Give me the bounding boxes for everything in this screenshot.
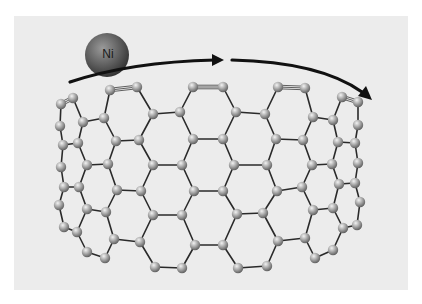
carbon-atom (308, 112, 318, 122)
carbon-atom (73, 138, 83, 148)
carbon-atom (300, 83, 310, 93)
carbon-atom (105, 85, 115, 95)
carbon-atom (327, 159, 337, 169)
carbon-atom (82, 160, 92, 170)
carbon-atom (68, 93, 78, 103)
carbon-atom (300, 233, 310, 243)
carbon-atom (337, 92, 347, 102)
carbon-atom (59, 222, 69, 232)
carbon-atom (334, 179, 344, 189)
carbon-atom (229, 160, 239, 170)
carbon-atom (103, 159, 113, 169)
carbon-atom (262, 261, 272, 271)
carbon-atom (232, 209, 242, 219)
carbon-atom (262, 160, 272, 170)
carbon-atom (150, 262, 160, 272)
carbon-atom (177, 210, 187, 220)
carbon-atom (233, 263, 243, 273)
carbon-atom (350, 178, 360, 188)
carbon-atom (190, 240, 200, 250)
carbon-atom (177, 160, 187, 170)
carbon-atom (353, 120, 363, 130)
carbon-atom (338, 223, 348, 233)
carbon-atom (272, 186, 282, 196)
carbon-atom (218, 240, 228, 250)
nickel-label: Ni (102, 47, 113, 61)
carbon-atom (78, 117, 88, 127)
carbon-atom (100, 253, 110, 263)
carbon-atom (189, 186, 199, 196)
figure-panel-background (14, 16, 408, 290)
carbon-atom (136, 186, 146, 196)
carbon-atom (258, 208, 268, 218)
carbon-atom (177, 263, 187, 273)
carbon-atom (111, 136, 121, 146)
carbon-atom (352, 220, 362, 230)
carbon-atom (298, 135, 308, 145)
carbon-atom (260, 109, 270, 119)
carbon-atom (273, 82, 283, 92)
carbon-atom (328, 245, 338, 255)
carbon-atom (132, 82, 142, 92)
carbon-atom (55, 121, 65, 131)
carbon-atom (328, 203, 338, 213)
carbon-atom (56, 99, 66, 109)
carbon-atom (355, 197, 365, 207)
carbon-atom (328, 115, 338, 125)
carbon-atom (82, 204, 92, 214)
carbon-atom (307, 160, 317, 170)
carbon-atom (271, 134, 281, 144)
carbon-atom (54, 200, 64, 210)
carbon-atom (134, 135, 144, 145)
carbon-atom (101, 207, 111, 217)
carbon-atom (59, 182, 69, 192)
carbon-atom (231, 107, 241, 117)
carbon-atom (353, 97, 363, 107)
carbon-atom (310, 253, 320, 263)
carbon-atom (175, 107, 185, 117)
nanotube-figure: Ni (0, 0, 422, 304)
carbon-atom (74, 182, 84, 192)
carbon-atom (99, 113, 109, 123)
carbon-atom (135, 237, 145, 247)
carbon-atom (350, 138, 360, 148)
carbon-atom (82, 247, 92, 257)
carbon-atom (218, 186, 228, 196)
carbon-atom (218, 82, 228, 92)
carbon-atom (72, 227, 82, 237)
carbon-atom (188, 82, 198, 92)
carbon-atom (148, 210, 158, 220)
carbon-atom (109, 234, 119, 244)
carbon-atom (297, 182, 307, 192)
carbon-atom (353, 158, 363, 168)
carbon-atom (273, 236, 283, 246)
carbon-atom (308, 205, 318, 215)
carbon-atom (56, 162, 66, 172)
carbon-atom (188, 134, 198, 144)
carbon-atom (218, 134, 228, 144)
carbon-atom (148, 109, 158, 119)
carbon-atom (148, 160, 158, 170)
carbon-atom (58, 140, 68, 150)
carbon-atom (112, 185, 122, 195)
carbon-atom (333, 137, 343, 147)
